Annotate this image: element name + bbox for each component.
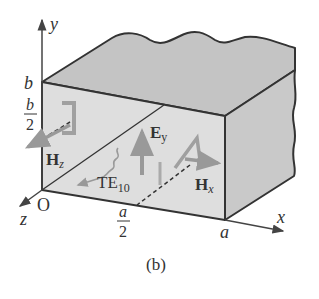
b-label: b [24,73,33,93]
a-half-numerator: a [119,203,127,220]
b-half-numerator: b [26,96,34,113]
x-axis [225,220,283,231]
y-axis-label: y [48,14,58,34]
figure-caption: (b) [146,255,166,274]
b-half-denominator: 2 [26,116,34,133]
a-half-denominator: 2 [119,223,127,240]
a-label: a [220,222,229,242]
waveguide-diagram: y x z O b b 2 a a 2 Ey Hz Hx TE10 (b) [0,0,319,299]
z-axis-label: z [19,209,27,229]
origin-label: O [37,195,50,215]
x-axis-label: x [276,207,285,227]
